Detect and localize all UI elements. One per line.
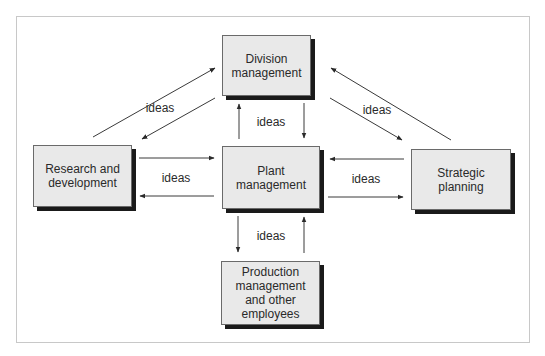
node-division-management: Division management	[222, 35, 311, 96]
edge-label-research-division: ideas	[146, 101, 175, 115]
edge-label-strategic-division: ideas	[363, 103, 392, 117]
node-production-management: Production management and other employee…	[221, 261, 320, 325]
node-label: Plant management	[236, 164, 306, 192]
node-plant-management: Plant management	[222, 146, 320, 209]
edge-label-production-plant: ideas	[257, 229, 286, 243]
node-label: Research and development	[45, 162, 120, 190]
node-research-and-development: Research and development	[33, 145, 132, 207]
node-label: Production management and other employee…	[235, 265, 305, 321]
edge-label-plant-division: ideas	[257, 115, 286, 129]
edge-label-strategic-plant: ideas	[352, 172, 381, 186]
node-strategic-planning: Strategic planning	[411, 149, 511, 210]
node-label: Division management	[231, 52, 301, 80]
edge-label-research-plant: ideas	[162, 171, 191, 185]
node-label: Strategic planning	[437, 166, 484, 194]
